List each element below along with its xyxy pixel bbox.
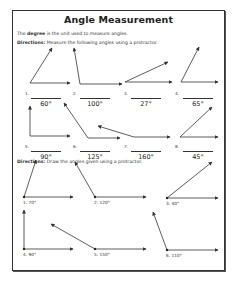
draw-label-1: 1. 70° xyxy=(23,200,36,205)
item-number: 6. xyxy=(73,144,77,149)
item-number: 4. xyxy=(175,91,179,96)
draw-angle-2 xyxy=(75,162,146,197)
angle-figure-1 xyxy=(30,48,70,83)
answer-value: 60° xyxy=(40,100,52,108)
item-number: 5. xyxy=(25,144,29,149)
answer-value: 160° xyxy=(138,153,154,161)
draw-label-4: 4. 90° xyxy=(23,252,36,257)
draw-angle-4 xyxy=(24,210,73,249)
answer-value: 100° xyxy=(87,100,103,108)
angle-figure-4 xyxy=(181,47,218,82)
item-number: 1. xyxy=(25,91,29,96)
answer-line-2: 100° xyxy=(80,98,110,99)
draw-label-2: 2. 120° xyxy=(94,200,110,205)
item-number: 8. xyxy=(175,144,179,149)
item-number: 2. xyxy=(73,91,77,96)
angle-figures xyxy=(0,0,236,282)
angle-figure-6 xyxy=(64,103,120,138)
answer-line-3: 27° xyxy=(131,98,161,99)
draw-label-3: 3. 40° xyxy=(166,201,179,206)
draw-angle-5 xyxy=(51,224,146,249)
item-number: 7. xyxy=(124,144,128,149)
draw-label-6: 6. 110° xyxy=(166,253,182,258)
angle-figure-7 xyxy=(98,126,170,137)
draw-angle-1 xyxy=(24,160,73,197)
angle-figure-3 xyxy=(125,62,172,82)
angle-figure-5 xyxy=(30,106,70,136)
draw-label-5: 5. 150° xyxy=(94,252,110,257)
angle-figure-2 xyxy=(74,48,122,84)
answer-value: 125° xyxy=(87,153,103,161)
answer-value: 65° xyxy=(192,100,204,108)
answer-value: 90° xyxy=(40,153,52,161)
answer-line-7: 160° xyxy=(131,151,161,152)
answer-value: 45° xyxy=(192,153,204,161)
item-number: 3. xyxy=(124,91,128,96)
draw-angle-6 xyxy=(153,212,218,250)
answer-line-5: 90° xyxy=(31,151,61,152)
answer-line-6: 125° xyxy=(80,151,110,152)
answer-line-4: 65° xyxy=(183,98,213,99)
draw-angle-3 xyxy=(167,162,218,198)
answer-line-8: 45° xyxy=(183,151,213,152)
answer-line-1: 60° xyxy=(31,98,61,99)
angle-figure-8 xyxy=(180,107,218,137)
answer-value: 27° xyxy=(140,100,152,108)
